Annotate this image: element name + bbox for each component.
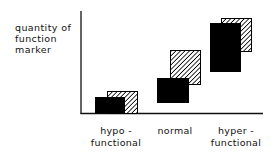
hyper-solid-bar	[210, 23, 241, 72]
x-label-line: functional	[86, 137, 146, 149]
x-label-line: hypo -	[86, 125, 146, 137]
x-label-line: hyper -	[206, 125, 266, 137]
x-label-hypofunctional: hypo - functional	[86, 125, 146, 149]
x-label-hyperfunctional: hyper - functional	[206, 125, 266, 149]
normal-solid-bar	[157, 78, 189, 103]
x-label-line: functional	[206, 137, 266, 149]
x-label-normal: normal	[150, 125, 200, 137]
hypo-solid-bar	[95, 97, 125, 114]
x-label-line: normal	[150, 125, 200, 137]
